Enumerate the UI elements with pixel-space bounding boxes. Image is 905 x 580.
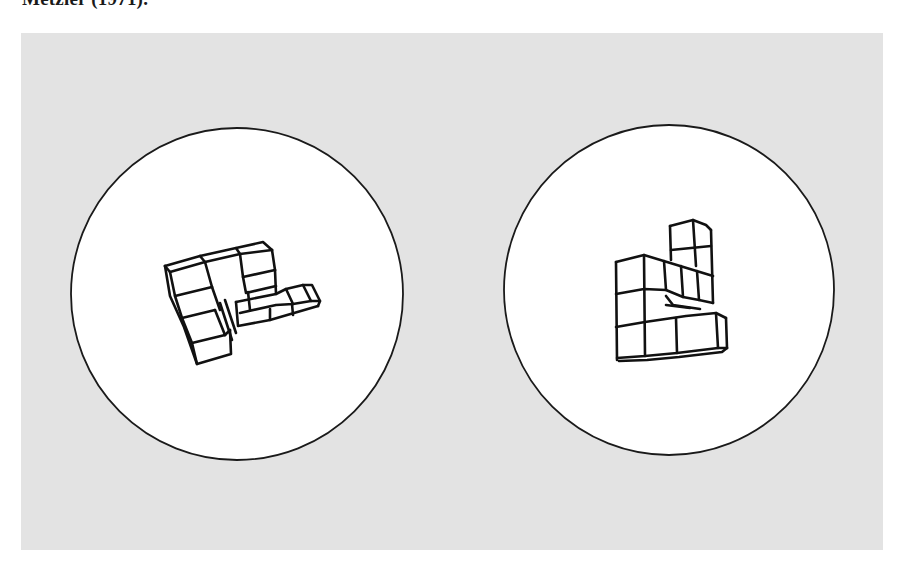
left-stimulus <box>71 128 403 460</box>
right-stimulus <box>504 125 834 455</box>
mental-rotation-figure <box>0 0 905 580</box>
